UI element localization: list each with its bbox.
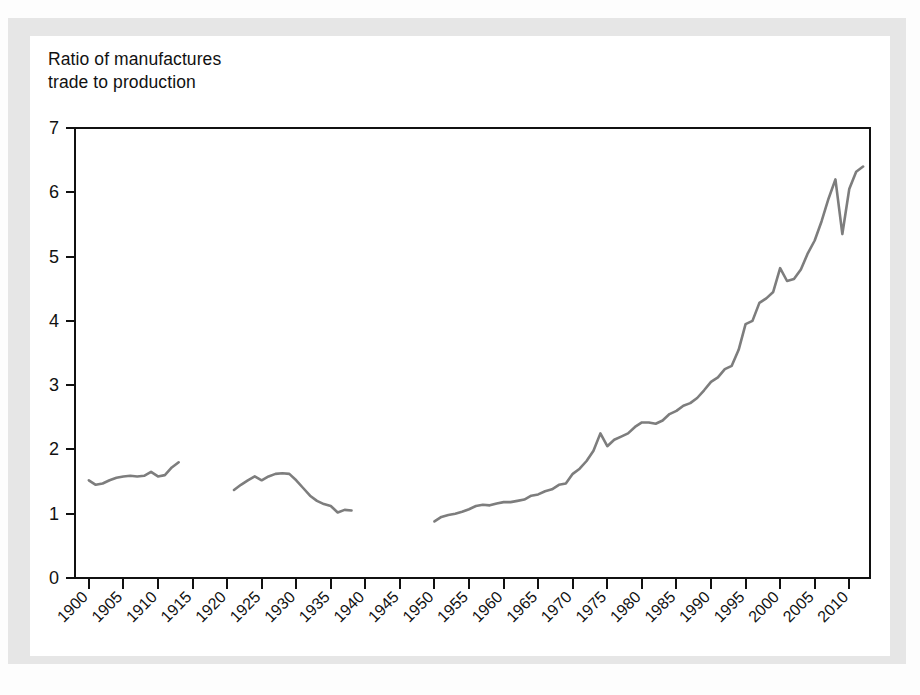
chart-title: Ratio of manufactures trade to productio… — [48, 48, 221, 94]
page-root: Ratio of manufactures trade to productio… — [0, 0, 920, 695]
figure-outer-frame — [8, 18, 906, 664]
figure-card — [30, 36, 890, 656]
